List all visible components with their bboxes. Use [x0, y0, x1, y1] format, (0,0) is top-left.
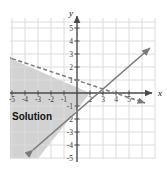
x-tick-label: 5 [127, 95, 131, 104]
y-tick-label: 2 [69, 63, 73, 72]
x-tick-label: 4 [114, 95, 118, 104]
x-tick-label: -3 [35, 95, 41, 104]
graph-canvas: -5 -4 -3 -2 -1 2 3 4 5 5 4 3 2 1 -1 -2 -… [0, 0, 167, 169]
x-axis-label: x [157, 88, 162, 98]
y-tick-label: 4 [69, 37, 73, 46]
x-tick-label: -2 [48, 95, 54, 104]
x-tick-label: 3 [101, 95, 105, 104]
x-tick-label: -4 [22, 95, 28, 104]
y-tick-label: -4 [67, 141, 73, 150]
coordinate-graph-figure: -5 -4 -3 -2 -1 2 3 4 5 5 4 3 2 1 -1 -2 -… [0, 0, 167, 169]
y-tick-label: -5 [67, 154, 73, 163]
y-tick-label: 1 [69, 76, 73, 85]
y-axis-label: y [68, 8, 73, 18]
y-tick-label: -1 [67, 102, 73, 111]
solution-region-label: Solution [12, 111, 52, 122]
y-tick-label: -3 [67, 128, 73, 137]
y-tick-label: 5 [69, 24, 73, 33]
x-tick-label: -5 [9, 95, 15, 104]
y-tick-label: 3 [69, 50, 73, 59]
